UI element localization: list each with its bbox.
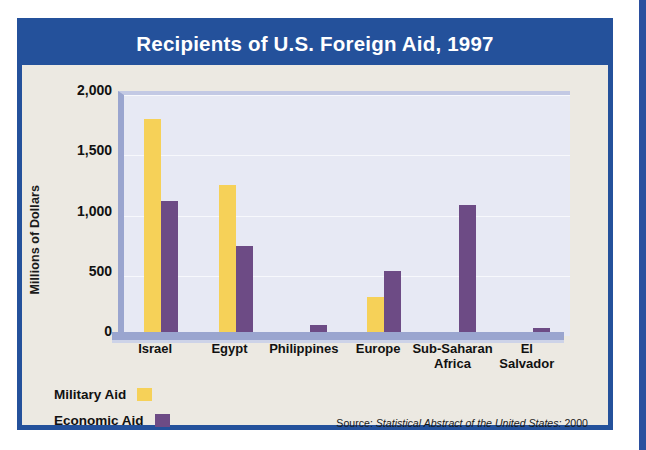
bar-economic <box>236 246 253 336</box>
chart-legend: Military Aid Economic Aid Source: Statis… <box>22 409 608 435</box>
legend-label-economic: Economic Aid <box>54 413 144 428</box>
source-note: Source: Statistical Abstract of the Unit… <box>336 417 588 429</box>
chart-figure-inner: Recipients of U.S. Foreign Aid, 1997 Mil… <box>22 23 608 425</box>
y-axis-tick-labels: 2,0001,5001,0005000 <box>44 65 112 365</box>
gridline <box>124 155 570 156</box>
x-tick-label-line: El <box>477 341 577 356</box>
bar-military <box>367 297 384 336</box>
bar-group <box>442 205 476 336</box>
chart-title-bar: Recipients of U.S. Foreign Aid, 1997 <box>22 23 608 65</box>
plot-box <box>118 91 570 336</box>
bar-group <box>144 119 178 336</box>
x-tick-label-line: Salvador <box>477 356 577 371</box>
bar-economic <box>459 205 476 336</box>
legend-swatch-military-icon <box>137 388 152 401</box>
bar-military <box>144 119 161 336</box>
legend-swatch-economic-icon <box>155 414 170 427</box>
source-year: 2000 <box>564 417 588 429</box>
page-right-rule <box>639 0 646 450</box>
x-axis-baseline <box>112 332 564 340</box>
legend-item-military: Military Aid <box>54 387 152 402</box>
bar-group <box>219 185 253 336</box>
y-tick-label: 1,000 <box>50 203 112 219</box>
gridline <box>124 95 570 96</box>
x-axis-tick-labels: IsraelEgyptPhilippinesEuropeSub-SaharanA… <box>118 341 564 385</box>
page-title: Recipients of U.S. Foreign Aid, 1997 <box>136 32 493 56</box>
chart-figure: Recipients of U.S. Foreign Aid, 1997 Mil… <box>17 18 613 430</box>
y-tick-label: 1,500 <box>50 142 112 158</box>
plot-inner <box>124 95 570 336</box>
source-prefix: Source: <box>336 417 373 429</box>
legend-item-economic: Economic Aid <box>54 413 170 428</box>
bar-group <box>367 271 401 336</box>
bar-economic <box>384 271 401 336</box>
y-tick-label: 0 <box>50 323 112 339</box>
y-tick-label: 2,000 <box>50 82 112 98</box>
page-root: Recipients of U.S. Foreign Aid, 1997 Mil… <box>0 0 646 450</box>
gridline <box>124 216 570 217</box>
legend-label-military: Military Aid <box>54 387 126 402</box>
bar-military <box>219 185 236 336</box>
source-title: Statistical Abstract of the United State… <box>376 417 562 429</box>
y-axis-title: Millions of Dollars <box>28 185 42 295</box>
x-tick-label: ElSalvador <box>477 341 577 371</box>
chart-plot-area: Millions of Dollars 2,0001,5001,0005000 … <box>22 65 608 409</box>
y-tick-label: 500 <box>50 263 112 279</box>
bar-economic <box>161 201 178 336</box>
gridline <box>124 276 570 277</box>
